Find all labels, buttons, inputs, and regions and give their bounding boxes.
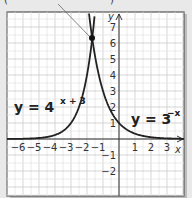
truncated-label-fragment: ( <box>4 0 8 5</box>
y-axis-label: y <box>107 11 115 22</box>
y-tick-label: −2 <box>101 166 116 177</box>
y-tick-label: 5 <box>110 54 116 65</box>
y-tick-label: 4 <box>110 70 116 81</box>
x-tick-label: −4 <box>43 142 58 153</box>
exponential-graph: −6−5−4−3−2−11237654321−1−2 ( ) y = 4 x +… <box>0 0 192 198</box>
x-tick-label: −2 <box>75 142 90 153</box>
intersection-point <box>89 35 95 41</box>
x-axis-label: x <box>174 144 181 155</box>
x-tick-label: −5 <box>27 142 42 153</box>
y-tick-label: 7 <box>110 22 116 33</box>
right-equation-label: y = 3 <box>131 111 171 127</box>
x-tick-label: 1 <box>132 142 138 153</box>
x-tick-label: 2 <box>148 142 154 153</box>
x-tick-label: −3 <box>59 142 74 153</box>
x-tick-label: 3 <box>164 142 170 153</box>
y-tick-label: 6 <box>110 38 116 49</box>
y-tick-label: 1 <box>110 118 116 129</box>
x-tick-label: −6 <box>11 142 26 153</box>
y-tick-label: 3 <box>110 86 116 97</box>
y-tick-label: −1 <box>101 150 116 161</box>
right-equation-exponent: −x <box>167 108 181 118</box>
truncated-label-fragment-end: ) <box>110 0 114 5</box>
left-equation-exponent: x + 3 <box>60 96 86 106</box>
left-equation-label: y = 4 <box>14 99 55 115</box>
